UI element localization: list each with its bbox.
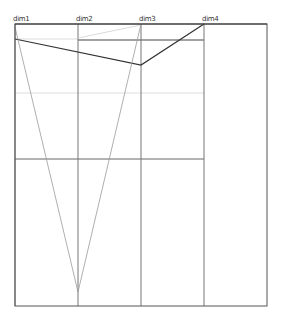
series-line-3 <box>78 25 141 38</box>
axes <box>15 24 204 306</box>
parallel-coordinates-chart <box>0 0 281 321</box>
gridlines <box>15 39 204 159</box>
data-lines <box>15 24 204 292</box>
series-line-1 <box>15 24 204 65</box>
